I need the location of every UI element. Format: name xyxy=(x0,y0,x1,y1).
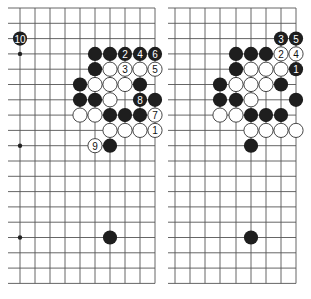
white-stone xyxy=(118,123,132,137)
black-stone xyxy=(259,108,273,122)
black-stone xyxy=(133,108,147,122)
move-number: 4 xyxy=(293,49,299,60)
move-number: 4 xyxy=(137,49,143,60)
black-stone xyxy=(213,77,227,91)
black-stone xyxy=(244,108,258,122)
white-stone xyxy=(88,108,102,122)
go-board-right: 35241 xyxy=(168,8,303,283)
black-stone xyxy=(259,47,273,61)
move-number: 2 xyxy=(278,49,284,60)
black-stone xyxy=(289,93,303,107)
move-number: 7 xyxy=(152,110,158,121)
white-stone xyxy=(259,77,273,91)
black-stone: 1 xyxy=(289,62,303,76)
black-stone xyxy=(244,47,258,61)
black-stone xyxy=(88,93,102,107)
white-stone xyxy=(274,62,288,76)
black-stone xyxy=(118,108,132,122)
white-stone: 7 xyxy=(148,108,162,122)
grid-lines xyxy=(8,8,155,283)
white-stone xyxy=(244,123,258,137)
move-number: 10 xyxy=(14,34,26,45)
black-stone: 3 xyxy=(274,31,288,45)
white-stone xyxy=(289,123,303,137)
move-number: 3 xyxy=(122,64,128,75)
black-stone xyxy=(103,139,117,153)
black-stone xyxy=(213,93,227,107)
black-stone xyxy=(229,93,243,107)
black-stone xyxy=(73,77,87,91)
white-stone xyxy=(259,123,273,137)
black-stone xyxy=(103,47,117,61)
black-stone xyxy=(88,47,102,61)
star-point xyxy=(18,144,22,148)
black-stone xyxy=(103,108,117,122)
white-stone xyxy=(133,123,147,137)
black-stone xyxy=(103,230,117,244)
black-stone xyxy=(274,77,288,91)
black-stone: 6 xyxy=(148,47,162,61)
move-number: 6 xyxy=(152,49,158,60)
white-stone xyxy=(244,62,258,76)
black-stone xyxy=(274,108,288,122)
white-stone xyxy=(274,123,288,137)
white-stone xyxy=(229,77,243,91)
black-stone xyxy=(229,62,243,76)
black-stone xyxy=(244,139,258,153)
move-number: 1 xyxy=(152,125,158,136)
white-stone: 1 xyxy=(148,123,162,137)
move-number: 1 xyxy=(293,64,299,75)
white-stone xyxy=(133,62,147,76)
white-stone xyxy=(259,62,273,76)
white-stone xyxy=(73,108,87,122)
move-number: 5 xyxy=(293,34,299,45)
move-number: 5 xyxy=(152,64,158,75)
white-stone: 5 xyxy=(148,62,162,76)
white-stone xyxy=(244,93,258,107)
white-stone xyxy=(244,77,258,91)
go-diagram: 10246358719 35241 xyxy=(0,0,311,299)
move-number: 2 xyxy=(122,49,128,60)
black-stone xyxy=(229,47,243,61)
white-stone xyxy=(103,93,117,107)
star-point xyxy=(18,52,22,56)
black-stone: 2 xyxy=(118,47,132,61)
star-point xyxy=(18,235,22,239)
white-stone xyxy=(103,62,117,76)
black-stone: 4 xyxy=(133,47,147,61)
black-stone xyxy=(88,62,102,76)
black-stone xyxy=(244,230,258,244)
black-stone xyxy=(73,93,87,107)
move-number: 3 xyxy=(278,34,284,45)
white-stone: 3 xyxy=(118,62,132,76)
black-stone xyxy=(148,93,162,107)
white-stone xyxy=(103,123,117,137)
move-number: 9 xyxy=(92,141,98,152)
black-stone: 10 xyxy=(13,31,27,45)
white-stone xyxy=(213,108,227,122)
black-stone: 8 xyxy=(133,93,147,107)
white-stone xyxy=(88,77,102,91)
white-stone xyxy=(103,77,117,91)
move-number: 8 xyxy=(137,95,143,106)
go-board-left: 10246358719 xyxy=(8,8,162,283)
white-stone: 4 xyxy=(289,47,303,61)
white-stone xyxy=(229,108,243,122)
white-stone xyxy=(118,77,132,91)
black-stone xyxy=(133,77,147,91)
white-stone: 2 xyxy=(274,47,288,61)
white-stone: 9 xyxy=(88,139,102,153)
black-stone: 5 xyxy=(289,31,303,45)
